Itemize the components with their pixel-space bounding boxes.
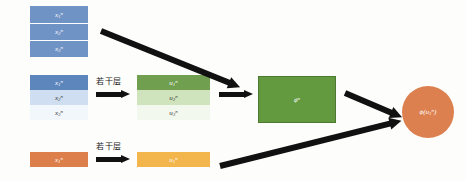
input-band: x2n	[30, 90, 88, 105]
label-sup: n	[61, 45, 64, 50]
feature-block-label: ϕn	[259, 96, 335, 104]
arrow-head	[121, 155, 130, 163]
output-node-label: ϕ(u1n)	[402, 108, 454, 116]
input-band-label: x3n	[30, 109, 88, 117]
input-band-label: x2n	[30, 94, 88, 102]
caption-several-layers-bottom: 若干层	[96, 140, 122, 151]
input-band: x1n	[30, 152, 88, 167]
input-group-top: x1n x2n x3n	[30, 6, 88, 57]
label-sup: n	[175, 109, 178, 114]
input-band: x3n	[30, 40, 88, 57]
caption-several-layers-middle: 若干层	[96, 75, 122, 86]
hidden-band-label: u1n	[137, 156, 210, 164]
label-sup: n	[298, 96, 301, 101]
arrow-shaft	[96, 157, 121, 162]
input-band: x2n	[30, 23, 88, 40]
label-sup: n	[61, 109, 64, 114]
label-sup: n	[175, 79, 178, 84]
arrow-head	[121, 90, 130, 98]
hidden-group-bottom: u1n	[137, 152, 210, 167]
hidden-band: u1n	[137, 75, 210, 90]
hidden-band: u1n	[137, 152, 210, 167]
input-band-label: x1n	[30, 11, 88, 19]
input-band: x3n	[30, 105, 88, 120]
input-band-label: x1n	[30, 156, 88, 164]
arrow-shaft	[219, 92, 244, 97]
hidden-band: u3n	[137, 105, 210, 120]
hidden-band-label: u2n	[137, 94, 210, 102]
input-band-label: x2n	[30, 28, 88, 36]
arrow-shaft	[219, 121, 391, 169]
input-band: x1n	[30, 75, 88, 90]
input-band: x1n	[30, 6, 88, 23]
input-group-bottom: x1n	[30, 152, 88, 167]
label-sup: n	[175, 156, 178, 161]
arrow-head	[244, 90, 253, 98]
arrow-input-to-hidden-bottom	[96, 155, 130, 164]
hidden-band-label: u1n	[137, 79, 210, 87]
label-sup: n	[61, 94, 64, 99]
hidden-band-label: u3n	[137, 109, 210, 117]
input-band-label: x3n	[30, 45, 88, 53]
arrow-bottom-hidden-to-output	[219, 117, 402, 170]
label-sup: n	[61, 11, 64, 16]
label-sup: n	[61, 28, 64, 33]
input-band-label: x1n	[30, 79, 88, 87]
label-sup: n	[61, 156, 64, 161]
label-sup: n	[175, 94, 178, 99]
feature-block: ϕn	[258, 76, 336, 123]
diagram-canvas: x1n x2n x3n x1n x2n x3n	[0, 0, 466, 181]
arrow-shaft	[96, 92, 121, 97]
arrow-input-to-hidden-middle	[96, 90, 130, 99]
arrow-shaft	[344, 90, 393, 115]
arrow-head	[388, 115, 403, 130]
hidden-group-middle: u1n u2n u3n	[137, 75, 210, 120]
input-group-middle: x1n x2n x3n	[30, 75, 88, 120]
label-sup: n	[61, 79, 64, 84]
output-node: ϕ(u1n)	[402, 86, 454, 138]
hidden-band: u2n	[137, 90, 210, 105]
